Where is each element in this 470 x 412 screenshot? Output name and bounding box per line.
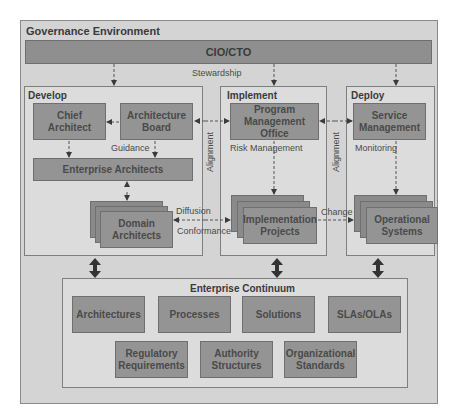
connector-arrows [0,0,470,412]
